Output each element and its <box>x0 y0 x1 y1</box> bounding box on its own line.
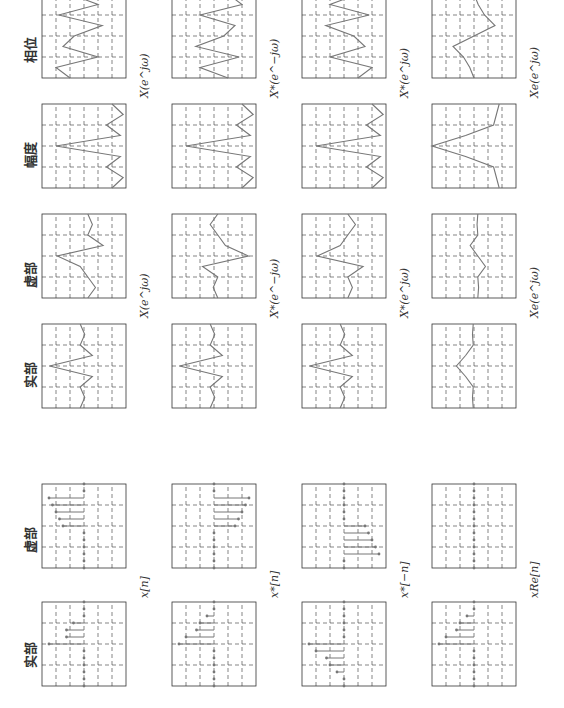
axis-label: Xe(e^jω) <box>528 47 541 98</box>
chart <box>0 0 564 708</box>
figure-rotated: 实部 虚部 实部 虚部 幅度 相位 x[n]X(e^jω)X(e^jω)x*[n… <box>0 0 564 708</box>
axis-label: Xe(e^jω) <box>528 267 541 318</box>
axis-label: xRe[n] <box>528 561 541 598</box>
